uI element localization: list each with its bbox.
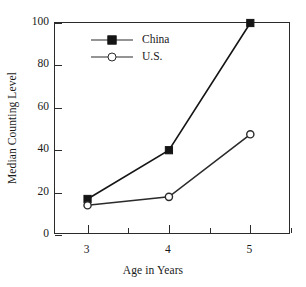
circle-marker-icon [91, 51, 133, 63]
y-tick-label: 80 [38, 59, 50, 71]
x-tick-mark-minor [291, 228, 292, 233]
y-tick-label: 60 [38, 101, 50, 113]
x-tick-label: 5 [246, 244, 252, 256]
y-tick-label: 20 [38, 186, 50, 198]
y-tick-label: 100 [32, 16, 49, 28]
chart-figure: Median Counting Level China [0, 0, 306, 287]
data-point-marker [165, 193, 172, 200]
data-point-marker [247, 131, 254, 138]
y-tick-mark [55, 235, 62, 236]
legend-entry-us: U.S. [91, 48, 169, 65]
y-tick-label: 0 [43, 228, 49, 240]
square-marker-icon [91, 34, 133, 46]
plot-area: China U.S. [54, 22, 290, 234]
chart-legend: China U.S. [91, 31, 169, 65]
legend-label-us: U.S. [142, 51, 162, 63]
data-point-marker [165, 147, 172, 154]
y-axis-title: Median Counting Level [6, 72, 18, 184]
x-axis-title: Age in Years [0, 264, 306, 276]
x-tick-label: 3 [84, 244, 90, 256]
data-point-marker [247, 19, 254, 26]
x-tick-label: 4 [165, 244, 171, 256]
data-point-marker [84, 202, 91, 209]
legend-label-china: China [142, 34, 169, 46]
y-tick-label: 40 [38, 143, 50, 155]
legend-entry-china: China [91, 31, 169, 48]
